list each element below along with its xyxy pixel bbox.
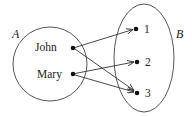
- mapping-arrows: [75, 30, 134, 93]
- set-a-circle: [13, 27, 87, 101]
- arrow-mary-to-2: [75, 62, 134, 74]
- arrow-mary-to-3: [75, 75, 134, 92]
- arrow-john-to-1: [75, 30, 133, 48]
- set-b-ellipse: [114, 4, 174, 112]
- element-john-label: John: [35, 41, 57, 53]
- set-a-label: A: [11, 27, 20, 41]
- element-2-label: 2: [145, 56, 151, 68]
- element-2-dot: [135, 60, 140, 65]
- arrow-john-to-3: [75, 49, 134, 91]
- set-a: A John Mary: [11, 27, 87, 101]
- element-1-dot: [134, 27, 139, 32]
- element-3-label: 3: [145, 87, 151, 99]
- set-b: B 1 2 3: [114, 4, 184, 112]
- element-john-dot: [71, 46, 76, 51]
- element-1-label: 1: [144, 23, 150, 35]
- set-b-label: B: [176, 27, 184, 41]
- element-mary-label: Mary: [37, 68, 62, 81]
- element-mary-dot: [71, 72, 76, 77]
- element-3-dot: [135, 91, 140, 96]
- mapping-diagram: A John Mary B 1 2 3: [0, 0, 192, 116]
